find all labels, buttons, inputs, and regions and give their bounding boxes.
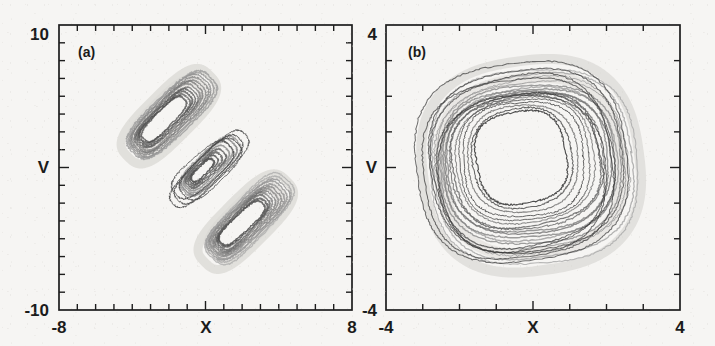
- figure-canvas: 10 -10 V -8 8 X (a) 4 -4 V -4 4 X (b): [0, 0, 715, 346]
- panel-tag-a: (a): [78, 44, 95, 60]
- y-axis-title-b: V: [366, 158, 378, 177]
- y-axis-min-label-b: -4: [362, 301, 378, 320]
- attractor-curves-a: [121, 68, 295, 269]
- panel-a: 10 -10 V -8 8 X (a): [0, 0, 360, 346]
- panel-a-svg: 10 -10 V -8 8 X (a): [0, 0, 360, 346]
- panel-b: 4 -4 V -4 4 X (b): [355, 0, 715, 346]
- x-axis-min-label-a: -8: [51, 318, 66, 337]
- attractor-curves-b: [414, 59, 641, 273]
- x-axis-title-a: X: [200, 318, 212, 337]
- panel-b-svg: 4 -4 V -4 4 X (b): [355, 0, 715, 346]
- x-axis-max-label-b: 4: [675, 318, 685, 337]
- y-axis-title-a: V: [38, 158, 50, 177]
- trajectory-path: [474, 110, 568, 206]
- y-axis-min-label-a: -10: [24, 301, 49, 320]
- x-axis-min-label-b: -4: [378, 318, 394, 337]
- panel-tag-b: (b): [408, 44, 426, 60]
- x-axis-title-b: X: [527, 318, 539, 337]
- y-axis-max-label-b: 4: [368, 25, 378, 44]
- y-axis-max-label-a: 10: [30, 25, 49, 44]
